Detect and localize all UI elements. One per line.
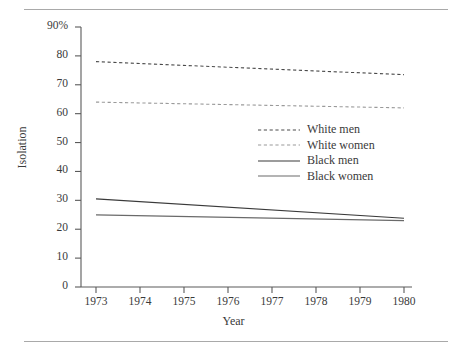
y-axis-title: Isolation [15,108,30,188]
x-axis-title: Year [0,314,467,329]
y-tick-label: 70 [28,77,68,89]
x-tick-label: 1977 [249,295,295,307]
legend-item-label: White women [307,138,375,154]
series-line-white-men [96,62,404,75]
y-tick-label: 10 [28,250,68,262]
x-axis-ticks [96,287,404,293]
y-tick-label: 80 [28,48,68,60]
series-line-white-women [96,102,404,108]
legend-item[interactable]: Black men [258,153,375,169]
legend-line-swatch-icon [258,171,300,181]
chart-legend: White menWhite womenBlack menBlack women [258,122,375,184]
y-tick-label: 90% [28,19,68,31]
y-tick-label: 30 [28,192,68,204]
legend-item[interactable]: Black women [258,169,375,185]
line-chart-figure: 90%80706050403020100 1973197419751976197… [0,0,467,353]
legend-item-label: Black women [307,169,373,185]
legend-item[interactable]: White women [258,138,375,154]
x-tick-label: 1978 [293,295,339,307]
y-tick-label: 60 [28,106,68,118]
legend-line-swatch-icon [258,125,300,135]
legend-line-swatch-icon [258,156,300,166]
x-tick-label: 1973 [73,295,119,307]
x-tick-label: 1975 [161,295,207,307]
x-tick-label: 1974 [117,295,163,307]
y-tick-label: 0 [28,279,68,291]
legend-item[interactable]: White men [258,122,375,138]
y-tick-label: 50 [28,135,68,147]
x-tick-label: 1976 [205,295,251,307]
legend-item-label: White men [307,122,360,138]
x-tick-label: 1979 [337,295,383,307]
legend-item-label: Black men [307,153,359,169]
x-tick-label: 1980 [381,295,427,307]
y-axis-ticks [75,27,81,287]
y-tick-label: 40 [28,163,68,175]
y-tick-label: 20 [28,221,68,233]
legend-line-swatch-icon [258,140,300,150]
